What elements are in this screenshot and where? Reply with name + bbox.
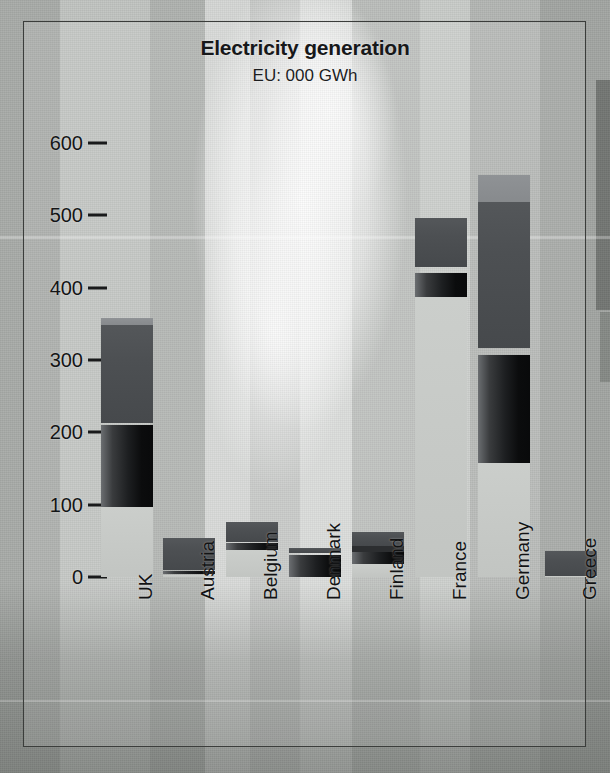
chart-subtitle: EU: 000 GWh: [0, 66, 610, 86]
chart-frame: [23, 21, 586, 747]
chart-title: Electricity generation: [0, 36, 610, 60]
